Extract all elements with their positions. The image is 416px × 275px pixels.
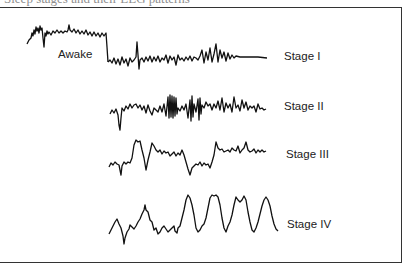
stage4-trace	[109, 195, 278, 244]
stage1-trace	[108, 42, 267, 69]
eeg-traces	[0, 0, 416, 275]
label-stage-2: Stage II	[284, 100, 324, 112]
label-stage-3: Stage III	[286, 148, 329, 160]
label-stage-1: Stage I	[284, 50, 320, 62]
label-stage-4: Stage IV	[287, 218, 331, 230]
stage2-trace	[110, 95, 266, 130]
stage3-trace	[109, 140, 266, 175]
label-awake: Awake	[58, 48, 92, 60]
